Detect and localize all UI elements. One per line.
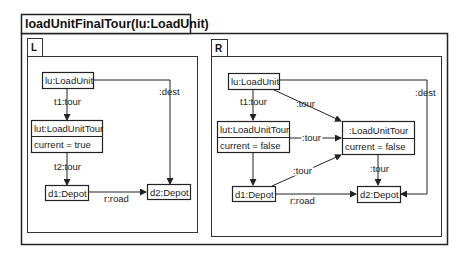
svg-text:current = false: current = false	[345, 141, 405, 152]
svg-text:current = false: current = false	[220, 140, 280, 151]
node-d2[interactable]: d2:Depot	[148, 185, 191, 200]
edge-label-t2: t2:tour	[54, 161, 81, 172]
edge-label-lut-newlut: :tour	[302, 132, 321, 143]
rule-title: loadUnitFinalTour(lu:LoadUnit)	[25, 17, 209, 31]
node-d2[interactable]: d2:Depot	[358, 187, 401, 203]
right-panel-label: R	[215, 43, 223, 54]
edge-label-road: r:road	[104, 193, 129, 204]
edge-label-dest: :dest	[415, 87, 436, 98]
edge-label-lu-newlut: :tour	[296, 98, 315, 109]
edge-label-t1: t1:tour	[240, 96, 267, 107]
svg-text::LoadUnitTour: :LoadUnitTour	[349, 125, 408, 136]
svg-text:d2:Depot: d2:Depot	[150, 187, 189, 198]
node-lu[interactable]: lu:LoadUnit	[43, 73, 94, 89]
diagram-canvas: loadUnitFinalTour(lu:LoadUnit) L t1:tour…	[0, 0, 466, 258]
node-lu[interactable]: lu:LoadUnit	[229, 74, 280, 90]
svg-text:lu:LoadUnit: lu:LoadUnit	[231, 76, 279, 87]
left-panel-label: L	[31, 42, 37, 53]
svg-text:lu:LoadUnit: lu:LoadUnit	[45, 75, 93, 86]
node-lut[interactable]: lut:LoadUnitTour current = true	[32, 121, 104, 153]
edge-label-d1-newlut: :tour	[293, 165, 312, 176]
svg-text:lut:LoadUnitTour: lut:LoadUnitTour	[220, 124, 289, 135]
edge-label-road: r:road	[290, 195, 315, 206]
left-panel: L t1:tour t2:tour :dest r:road lu:LoadUn…	[28, 39, 198, 233]
edge-label-dest: :dest	[159, 86, 180, 97]
node-d1[interactable]: d1:Depot	[46, 186, 89, 201]
svg-text:lut:LoadUnitTour: lut:LoadUnitTour	[34, 123, 103, 134]
svg-text:d1:Depot: d1:Depot	[235, 189, 274, 200]
svg-text:d2:Depot: d2:Depot	[360, 189, 399, 200]
right-panel: R t1:tour :tour :tour :tour :tour :dest …	[212, 40, 442, 237]
node-new-lut[interactable]: :LoadUnitTour current = false	[343, 122, 415, 155]
svg-text:d1:Depot: d1:Depot	[48, 188, 87, 199]
edge-label-newlut-d2: :tour	[370, 163, 389, 174]
edge-label-t1: t1:tour	[54, 96, 81, 107]
node-lut[interactable]: lut:LoadUnitTour current = false	[218, 122, 290, 153]
svg-text:current = true: current = true	[34, 139, 91, 150]
node-d1[interactable]: d1:Depot	[233, 187, 276, 202]
